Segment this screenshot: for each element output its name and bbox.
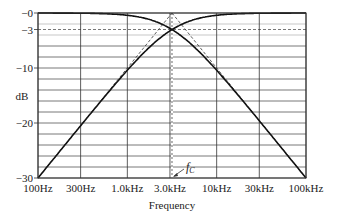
vertical-gridlines	[38, 13, 306, 178]
x-tick-label: 30kHz	[245, 182, 274, 194]
x-tick-label: 3.0kHz	[154, 182, 186, 194]
cutoff-annotation: fC	[173, 160, 195, 177]
x-tick-label: 1.0kHz	[111, 182, 143, 194]
x-tick-label: 100kHz	[289, 182, 324, 194]
y-tick-label: −0	[21, 7, 33, 19]
y-tick-label: −3	[21, 24, 33, 36]
x-axis-tick-labels: 100Hz300Hz1.0kHz3.0kHz10kHz30kHz100kHz	[23, 182, 323, 194]
x-tick-label: 300Hz	[66, 182, 95, 194]
y-axis-label: dB	[16, 90, 29, 102]
x-tick-label: 100Hz	[23, 182, 52, 194]
x-axis-label: Frequency	[149, 199, 196, 211]
x-tick-label: 10kHz	[202, 182, 231, 194]
cutoff-label: fC	[186, 160, 195, 175]
y-tick-label: −10	[16, 62, 34, 74]
frequency-response-chart: −0−3−10−20−30 100Hz300Hz1.0kHz3.0kHz10kH…	[0, 0, 343, 220]
y-tick-label: −20	[16, 117, 34, 129]
